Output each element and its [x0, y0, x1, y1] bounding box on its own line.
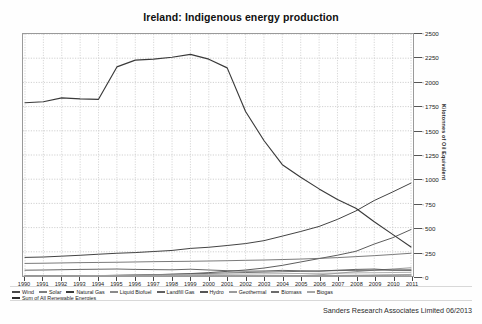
chart-page: Ireland: Indigenous energy production Ki…: [0, 0, 482, 324]
y-tick-label: 2500: [425, 30, 439, 37]
y-tick-label: 1500: [425, 127, 439, 134]
y-tick-label: 1250: [425, 152, 439, 159]
plot-inner: [23, 34, 413, 276]
legend-swatch-icon: [66, 291, 74, 292]
chart-title: Ireland: Indigenous energy production: [0, 11, 482, 23]
legend-swatch-icon: [12, 291, 20, 292]
legend-swatch-icon: [157, 291, 165, 292]
legend-label: Biogas: [317, 289, 333, 295]
legend-item[interactable]: Hydro: [200, 289, 224, 295]
y-tick-label: 0: [425, 274, 428, 281]
y-tick-label: 500: [425, 225, 435, 232]
y-tick-label: 1750: [425, 103, 439, 110]
legend-swatch-icon: [271, 291, 279, 292]
footer-credit: Sanders Research Associates Limited 06/2…: [323, 306, 472, 315]
legend-swatch-icon: [12, 297, 20, 298]
series-line: [25, 183, 411, 257]
legend-swatch-icon: [110, 291, 118, 292]
plot-area: [22, 33, 414, 277]
legend-divider-bottom: [10, 300, 472, 301]
legend-item[interactable]: Liquid Biofuel: [110, 289, 152, 295]
y-tick-label: 2000: [425, 78, 439, 85]
legend-label: Liquid Biofuel: [120, 289, 152, 295]
legend-label: Geothermal: [239, 289, 267, 295]
series-line: [25, 54, 411, 247]
legend-swatch-icon: [200, 291, 208, 292]
y-axis-label: Kilotonnes of Oil Equivalent: [441, 104, 447, 224]
chart-svg: [23, 34, 413, 276]
legend-item[interactable]: Geothermal: [229, 289, 267, 295]
y-tick-label: 1000: [425, 176, 439, 183]
y-tick-label: 250: [425, 249, 435, 256]
y-tick-label: 2250: [425, 54, 439, 61]
legend-label: Landfill Gas: [167, 289, 195, 295]
legend-swatch-icon: [307, 291, 315, 292]
legend-item[interactable]: Biomass: [271, 289, 301, 295]
legend-item[interactable]: Landfill Gas: [157, 289, 195, 295]
legend-swatch-icon: [229, 291, 237, 292]
legend-label: Hydro: [210, 289, 224, 295]
legend-label: Biomass: [281, 289, 301, 295]
legend-swatch-icon: [39, 291, 47, 292]
legend-item[interactable]: Biogas: [307, 289, 333, 295]
y-tick-label: 750: [425, 200, 435, 207]
legend-divider-top: [10, 286, 472, 287]
